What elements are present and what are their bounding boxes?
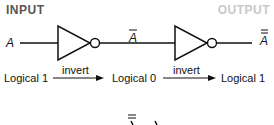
signal-input-label: A xyxy=(6,36,14,50)
state-2: Logical 0 xyxy=(112,72,156,84)
transition-1-label: invert xyxy=(62,64,89,76)
inverter-2-bubble-icon xyxy=(208,39,217,48)
inverter-1-bubble-icon xyxy=(91,39,100,48)
arrow-2-icon xyxy=(208,75,216,81)
state-1: Logical 1 xyxy=(4,72,48,84)
inverter-diagram xyxy=(0,0,274,125)
signal-output-label: A xyxy=(260,34,268,48)
signal-middle-label: A xyxy=(129,31,137,45)
transition-2-label: invert xyxy=(173,64,200,76)
inverter-2-icon xyxy=(175,26,207,60)
arrow-1-icon xyxy=(96,75,104,81)
state-3: Logical 1 xyxy=(221,72,265,84)
inverter-1-icon xyxy=(58,26,90,60)
